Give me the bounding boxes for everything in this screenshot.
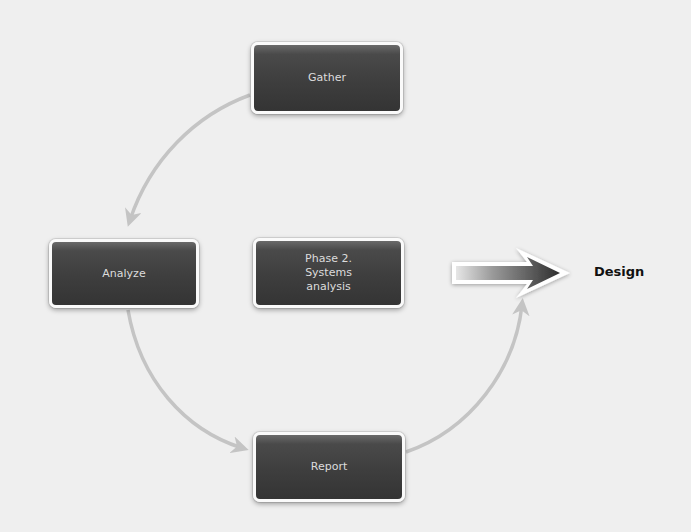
node-phase-line-3: analysis — [305, 280, 352, 294]
node-report-label: Report — [305, 460, 353, 474]
node-phase-label: Phase 2. Systems analysis — [299, 252, 358, 294]
node-phase-2-systems-analysis[interactable]: Phase 2. Systems analysis — [253, 238, 404, 308]
node-report[interactable]: Report — [253, 432, 405, 502]
node-gather-label: Gather — [302, 71, 352, 85]
connector-report-to-design — [406, 305, 522, 452]
connector-analyze-to-report — [128, 310, 242, 448]
block-arrow-icon — [452, 248, 570, 298]
node-analyze[interactable]: Analyze — [49, 239, 199, 308]
node-phase-line-2: Systems — [305, 266, 352, 280]
node-analyze-label: Analyze — [96, 267, 151, 281]
diagram-canvas: Gather Analyze Phase 2. Systems analysis… — [0, 0, 691, 532]
target-design-label: Design — [594, 264, 644, 279]
node-gather[interactable]: Gather — [251, 42, 403, 114]
connector-gather-to-analyze — [130, 95, 250, 220]
node-phase-line-1: Phase 2. — [305, 252, 352, 266]
